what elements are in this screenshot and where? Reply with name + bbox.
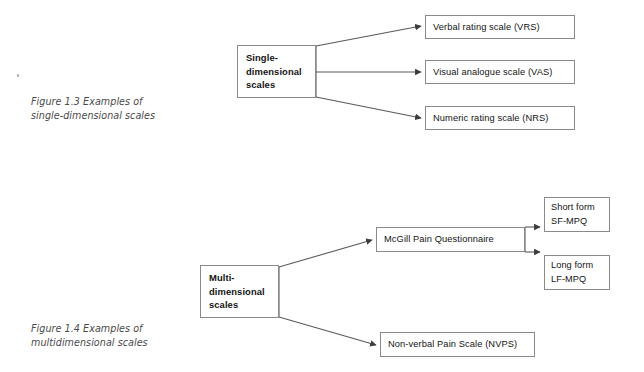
node-label: McGill Pain Questionnaire bbox=[377, 233, 501, 245]
figure-1-3-caption: Figure 1.3 Examples of single-dimensiona… bbox=[31, 95, 211, 122]
node-mcgill-pain-questionnaire[interactable]: McGill Pain Questionnaire bbox=[376, 227, 525, 252]
node-verbal-rating-scale[interactable]: Verbal rating scale (VRS) bbox=[425, 15, 575, 39]
node-label: Long form LF-MPQ bbox=[545, 259, 599, 285]
node-label: Numeric rating scale (NRS) bbox=[426, 112, 556, 124]
node-multidimensional-scales[interactable]: Multi- dimensional scales bbox=[200, 265, 279, 318]
node-visual-analogue-scale[interactable]: Visual analogue scale (VAS) bbox=[425, 60, 575, 84]
figure-1-3-connectors bbox=[0, 0, 644, 372]
node-non-verbal-pain-scale[interactable]: Non-verbal Pain Scale (NVPS) bbox=[380, 332, 535, 357]
node-label: Non-verbal Pain Scale (NVPS) bbox=[381, 338, 524, 350]
node-label: Visual analogue scale (VAS) bbox=[426, 66, 559, 78]
node-label: Single- dimensional scales bbox=[238, 51, 310, 92]
scan-speck bbox=[17, 74, 19, 77]
node-label: Multi- dimensional scales bbox=[201, 271, 273, 312]
node-long-form-lf-mpq[interactable]: Long form LF-MPQ bbox=[544, 255, 610, 290]
node-numeric-rating-scale[interactable]: Numeric rating scale (NRS) bbox=[425, 106, 575, 130]
node-label: Verbal rating scale (VRS) bbox=[426, 21, 547, 33]
figure-1-4-caption: Figure 1.4 Examples of multidimensional … bbox=[31, 322, 221, 349]
node-label: Short form SF-MPQ bbox=[545, 201, 601, 227]
figure-sheet: Single- dimensional scales Verbal rating… bbox=[0, 0, 644, 372]
node-single-dimensional-scales[interactable]: Single- dimensional scales bbox=[237, 45, 316, 98]
node-short-form-sf-mpq[interactable]: Short form SF-MPQ bbox=[544, 197, 610, 232]
